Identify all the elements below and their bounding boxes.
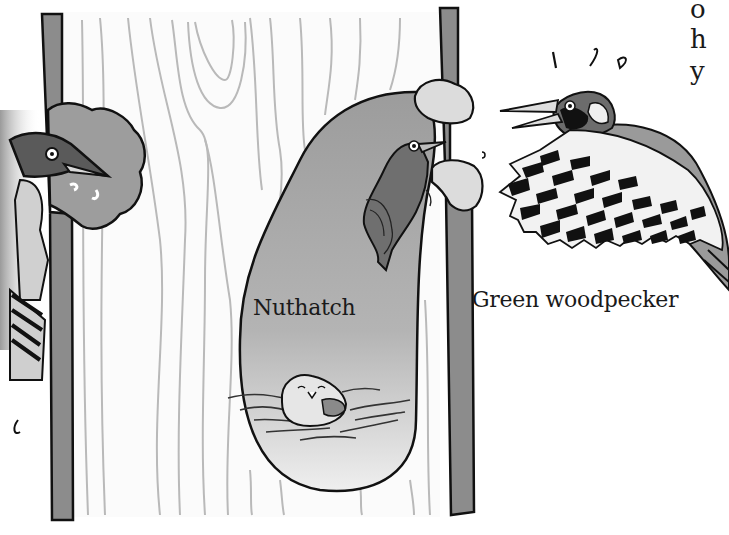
cropped-text-line-2: h <box>690 24 707 54</box>
nuthatch-label: Nuthatch <box>253 295 355 320</box>
illustration-scene <box>0 0 729 535</box>
cropped-text-line-3: y <box>690 56 705 86</box>
green-woodpecker-label: Green woodpecker <box>472 287 678 312</box>
cropped-text-line-1: o <box>690 0 706 24</box>
